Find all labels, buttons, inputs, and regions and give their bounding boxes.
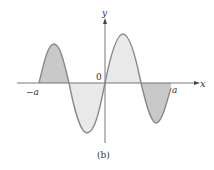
right-limit-label: a [172,85,177,95]
x-axis-label: x [200,78,206,89]
left-limit-label: −a [26,87,39,97]
figure-caption: (b) [97,150,110,160]
origin-label: 0 [96,72,102,82]
y-axis-label: y [101,8,108,18]
odd-function-diagram: y x 0 −a a (b) [0,0,214,170]
y-axis-arrow-icon [103,18,107,24]
